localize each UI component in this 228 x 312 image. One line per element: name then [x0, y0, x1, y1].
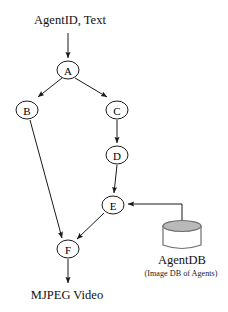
- node-c[interactable]: C: [106, 101, 128, 119]
- edge-a-to-b: [38, 78, 62, 97]
- node-b[interactable]: B: [16, 101, 38, 119]
- diagram-canvas: AgentID, Text A B C D: [0, 0, 228, 312]
- agentdb-label: AgentDB: [158, 253, 206, 267]
- node-a[interactable]: A: [57, 61, 79, 79]
- node-f[interactable]: F: [57, 240, 79, 258]
- output-label: MJPEG Video: [31, 288, 103, 302]
- node-f-label: F: [65, 244, 71, 256]
- database-top-ellipse: [163, 221, 201, 232]
- agentdb-cylinder[interactable]: [163, 221, 201, 249]
- node-d[interactable]: D: [106, 146, 128, 164]
- edge-a-to-c: [75, 78, 107, 97]
- edge-e-to-f: [77, 213, 104, 239]
- node-e-label: E: [110, 200, 117, 212]
- node-d-label: D: [113, 150, 121, 162]
- node-c-label: C: [113, 105, 120, 117]
- flowchart-diagram: AgentID, Text A B C D: [0, 0, 228, 312]
- input-label: AgentID, Text: [34, 13, 106, 27]
- edge-db-to-e: [128, 204, 182, 222]
- node-b-label: B: [23, 105, 30, 117]
- node-e[interactable]: E: [102, 196, 124, 214]
- edge-d-to-e: [114, 165, 117, 193]
- edge-b-to-f: [30, 120, 62, 238]
- agentdb-caption: (Image DB of Agents): [145, 269, 218, 278]
- node-a-label: A: [64, 65, 72, 77]
